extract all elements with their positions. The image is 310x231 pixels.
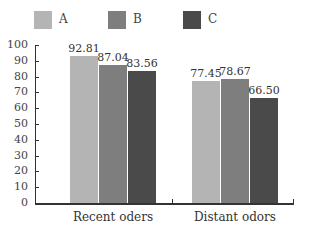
x-category-label: Recent oders (58, 210, 168, 224)
y-tick-label: 90 (0, 54, 28, 67)
y-tick-label: 30 (0, 149, 28, 162)
legend-swatch-b (108, 11, 126, 29)
bar-a (192, 81, 220, 203)
bar-b (221, 79, 249, 203)
y-tick-label: 40 (0, 133, 28, 146)
x-axis (35, 203, 294, 205)
bar-value-label: 66.50 (244, 84, 284, 97)
y-tick-label: 50 (0, 117, 28, 130)
y-tick (35, 140, 39, 141)
y-tick (35, 92, 39, 93)
y-tick (35, 187, 39, 188)
legend-label-c: C (208, 12, 217, 26)
y-tick-label: 80 (0, 70, 28, 83)
y-tick-label: 60 (0, 101, 28, 114)
y-tick-label: 0 (0, 196, 28, 209)
bar-value-label: 78.67 (215, 65, 255, 78)
y-tick (35, 203, 39, 204)
bar-value-label: 83.56 (122, 57, 162, 70)
bar-c (250, 98, 278, 203)
legend-label-a: A (59, 12, 68, 26)
y-tick-label: 100 (0, 38, 28, 51)
y-tick (35, 61, 39, 62)
y-tick-label: 10 (0, 180, 28, 193)
y-tick (35, 108, 39, 109)
y-tick (35, 156, 39, 157)
y-tick (35, 77, 39, 78)
y-tick (35, 171, 39, 172)
x-category-label: Distant odors (180, 210, 290, 224)
legend-swatch-c (183, 11, 201, 29)
bar-c (128, 71, 156, 203)
y-tick (35, 45, 39, 46)
bar-a (70, 56, 98, 203)
x-tick (293, 199, 294, 203)
y-tick (35, 124, 39, 125)
bar-b (99, 65, 127, 203)
legend-swatch-a (34, 11, 52, 29)
y-tick-label: 20 (0, 164, 28, 177)
x-tick (172, 199, 173, 203)
legend-label-b: B (133, 12, 142, 26)
y-tick-label: 70 (0, 85, 28, 98)
